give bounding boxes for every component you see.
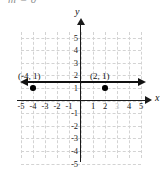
x-tick-label: 5	[134, 101, 148, 111]
point-label: (2, 1)	[90, 71, 110, 81]
coordinate-plane: x y -5-4-3-2-11234554321-1-2-3-4-5 (-4, …	[0, 0, 166, 169]
grid-line-horizontal	[21, 164, 141, 165]
plotted-point	[102, 85, 108, 91]
y-tick-label: -2	[66, 121, 78, 131]
y-axis-arrow-icon	[77, 18, 85, 25]
y-tick-label: 2	[66, 70, 78, 80]
y-tick-label: 1	[66, 83, 78, 93]
y-tick-label: -3	[66, 133, 78, 143]
y-tick-label: 4	[66, 45, 78, 55]
y-tick-label: -1	[66, 108, 78, 118]
line-arrow-right-icon	[138, 78, 146, 86]
x-axis-label: x	[155, 92, 159, 103]
plotted-point	[30, 85, 36, 91]
y-axis	[80, 22, 81, 162]
y-axis-label: y	[75, 6, 79, 17]
y-tick-label: -4	[66, 146, 78, 156]
point-label: (-4, 1)	[18, 71, 41, 81]
y-tick-label: 5	[66, 33, 78, 43]
y-tick-label: 3	[66, 58, 78, 68]
y-tick-label: -5	[66, 159, 78, 169]
graph-line-y-equals-1	[27, 81, 139, 83]
grid-line-vertical	[141, 32, 142, 158]
